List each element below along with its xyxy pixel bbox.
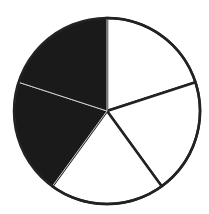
fraction-pie-chart [0,0,209,214]
